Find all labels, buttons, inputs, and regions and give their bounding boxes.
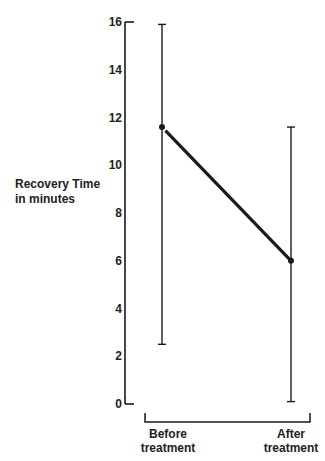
bracket-line [145,413,310,422]
chart-canvas: 0246810121416 Recovery Timein minutes Be… [0,0,325,461]
error-bars [158,24,295,401]
y-tick-label: 4 [115,302,122,316]
y-tick-label: 6 [115,254,122,268]
category-label-line: treatment [264,441,319,455]
data-point [288,258,294,264]
y-tick-label: 16 [109,15,123,29]
y-tick-label: 2 [115,349,122,363]
y-tick-label: 8 [115,206,122,220]
category-label-line: treatment [141,441,196,455]
y-axis-title: Recovery Timein minutes [15,177,100,206]
y-tick-label: 0 [115,397,122,411]
category-labels: BeforetreatmentAftertreatment [141,427,319,455]
category-label-line: After [277,427,305,441]
y-axis-title-line: in minutes [15,192,75,206]
y-tick-labels: 0246810121416 [109,15,123,411]
data-point [159,124,165,130]
y-axis-title-line: Recovery Time [15,177,100,191]
y-tick-label: 10 [109,158,123,172]
y-axis [125,22,134,404]
series-line [165,131,289,260]
category-label-line: Before [149,427,187,441]
y-tick-label: 12 [109,111,123,125]
category-bracket [145,413,310,422]
trend-line [165,131,289,260]
y-tick-label: 14 [109,63,123,77]
